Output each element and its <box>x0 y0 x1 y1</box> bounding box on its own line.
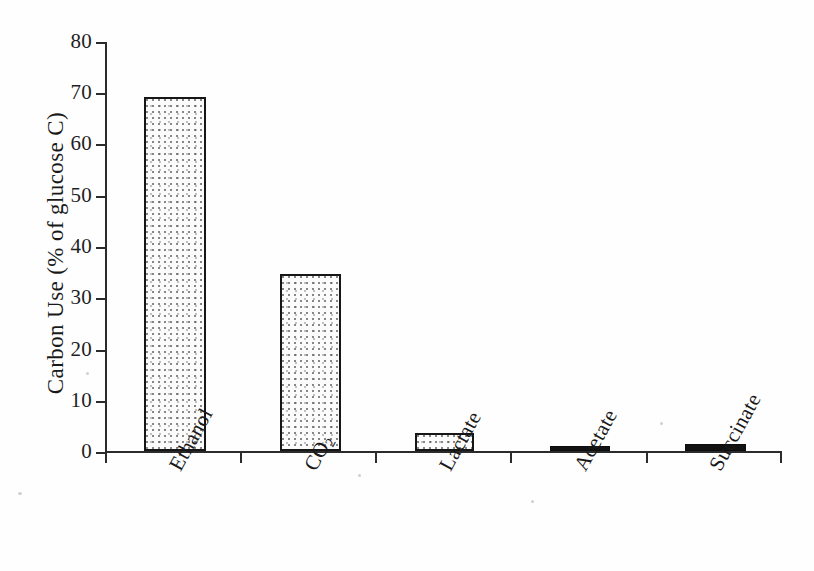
y-tick-60 <box>96 144 106 146</box>
scan-speck <box>18 492 22 495</box>
y-tick-label-80-wrap: 80 <box>36 31 92 52</box>
scan-speck <box>660 422 663 425</box>
scan-speck <box>86 372 89 375</box>
y-tick-70 <box>96 93 106 95</box>
y-tick-40 <box>96 247 106 249</box>
x-tick-0 <box>105 452 107 463</box>
y-tick-50 <box>96 196 106 198</box>
x-tick-4 <box>646 452 648 463</box>
y-tick-label-0: 0 <box>46 441 92 462</box>
y-tick-30 <box>96 298 106 300</box>
y-tick-label-0-wrap: 0 <box>36 441 92 462</box>
y-tick-20 <box>96 350 106 352</box>
x-category-label-acetate: Acetate <box>569 405 623 475</box>
x-tick-2 <box>375 452 377 463</box>
x-tick-1 <box>240 452 242 463</box>
plot-area: 80 70 60 50 40 30 20 10 <box>0 0 814 571</box>
x-tick-5 <box>780 452 782 463</box>
scan-speck <box>358 474 361 477</box>
y-axis-title: Carbon Use (% of glucose C) <box>43 63 69 443</box>
x-tick-3 <box>510 452 512 463</box>
scan-speck <box>531 500 534 503</box>
bar-ethanol <box>144 97 206 451</box>
y-tick-label-80: 80 <box>46 31 92 52</box>
chart-figure: 80 70 60 50 40 30 20 10 <box>0 0 814 571</box>
y-tick-80 <box>96 42 106 44</box>
y-tick-10 <box>96 401 106 403</box>
bar-co2 <box>280 274 341 451</box>
x-category-label-succinate: Succinate <box>704 389 767 475</box>
